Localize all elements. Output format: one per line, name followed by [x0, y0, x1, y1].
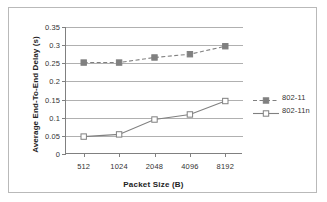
y-tick-label: 0.15 [45, 95, 60, 104]
x-tick-label: 512 [77, 162, 90, 171]
legend-label: 802-11 [282, 93, 305, 102]
y-tick-label: 0.25 [45, 59, 60, 68]
data-point-802-11n-1024 [116, 132, 121, 137]
y-tick-label: 0.3 [49, 41, 60, 50]
chart-frame: Average End-To-End Delay (s) 00.050.10.1… [8, 7, 317, 193]
data-point-802-11n-8192 [223, 98, 228, 103]
y-tick-label: 0 [56, 150, 60, 159]
legend-key-icon [253, 105, 279, 116]
data-point-802-11-512 [81, 60, 86, 65]
x-tick-label: 8192 [217, 162, 235, 171]
series-plot [66, 27, 243, 154]
data-point-802-11n-512 [81, 134, 86, 139]
y-axis-title: Average End-To-End Delay (s) [31, 25, 40, 165]
y-tick-label: 0.2 [49, 77, 60, 86]
x-tick-label: 1024 [110, 162, 128, 171]
y-tick-label: 0.1 [49, 113, 60, 122]
data-point-802-11-8192 [223, 44, 228, 49]
legend-key-icon [253, 92, 279, 103]
legend-label: 802-11n [282, 106, 310, 115]
y-tick-label: 0.35 [45, 23, 60, 32]
legend-item-802-11[interactable]: 802-11 [253, 91, 323, 104]
chart-figure: Average End-To-End Delay (s) 00.050.10.1… [0, 0, 327, 202]
plot-area: 00.050.10.150.20.250.30.35 5121024204840… [65, 27, 242, 154]
data-point-802-11-2048 [152, 55, 157, 60]
x-axis-title: Packet Size (B) [65, 180, 242, 189]
x-tick-label: 4096 [181, 162, 199, 171]
chart-legend: 802-11802-11n [253, 91, 323, 117]
legend-item-802-11n[interactable]: 802-11n [253, 104, 323, 117]
x-tick-label: 2048 [146, 162, 164, 171]
data-point-802-11-4096 [187, 52, 192, 57]
data-point-802-11-1024 [116, 60, 121, 65]
data-point-802-11n-4096 [187, 112, 192, 117]
y-tick-label: 0.05 [45, 131, 60, 140]
data-point-802-11n-2048 [152, 117, 157, 122]
y-tick-mark [62, 154, 66, 155]
